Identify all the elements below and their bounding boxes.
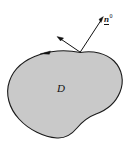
boundary-direction-arrow-icon — [40, 51, 50, 54]
region-d-shape — [8, 51, 123, 138]
normal-vector-label-superscript: 0 — [110, 13, 113, 19]
normal-vector-label-base: n — [104, 15, 109, 25]
normal-vector-arrow — [80, 17, 103, 53]
region-label-d: D — [57, 83, 65, 94]
diagram-svg — [0, 0, 135, 149]
tangent-vector-arrow — [57, 37, 80, 53]
normal-vector-shaft — [80, 19, 101, 52]
tangent-vector-shaft — [60, 39, 80, 53]
normal-vector-label: n0 — [104, 13, 113, 25]
figure-canvas: D n0 — [0, 0, 135, 149]
